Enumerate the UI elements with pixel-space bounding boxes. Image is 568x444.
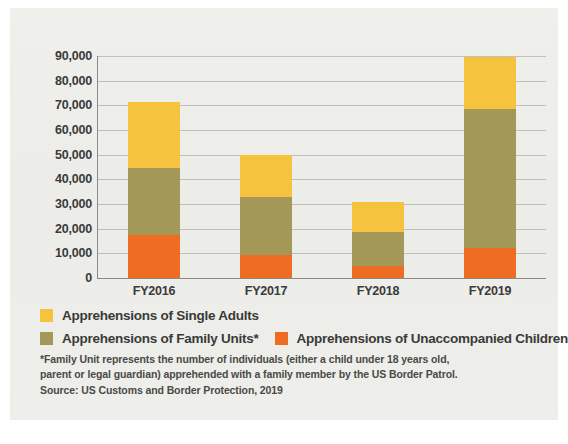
- legend-row: Apprehensions of Family Units*Apprehensi…: [40, 327, 550, 350]
- legend-swatch-family-units: [40, 332, 53, 345]
- y-tick-label: 0: [22, 271, 92, 285]
- legend-item[interactable]: Apprehensions of Single Adults: [40, 308, 259, 323]
- y-tick-label: 90,000: [22, 49, 92, 63]
- plot-area: FY2016FY2017FY2018FY2019: [98, 56, 546, 278]
- legend-swatch-unaccompanied-children: [275, 332, 288, 345]
- y-tick-label: 40,000: [22, 172, 92, 186]
- bar-segment[interactable]: [352, 266, 404, 278]
- bar-group[interactable]: FY2019: [464, 56, 516, 278]
- legend-label: Apprehensions of Single Adults: [62, 308, 259, 323]
- footnote-line-1: *Family Unit represents the number of in…: [40, 352, 540, 367]
- bar-segment[interactable]: [240, 155, 292, 196]
- legend-item[interactable]: Apprehensions of Family Units*: [40, 331, 259, 346]
- x-axis-label: FY2017: [224, 284, 308, 298]
- y-tick-label: 50,000: [22, 148, 92, 162]
- bar-segment[interactable]: [128, 235, 180, 278]
- stacked-bar[interactable]: [464, 57, 516, 278]
- footnote-line-2: parent or legal guardian) apprehended wi…: [40, 367, 540, 382]
- bar-segment[interactable]: [464, 248, 516, 278]
- y-tick-label: 10,000: [22, 246, 92, 260]
- bar-segment[interactable]: [464, 57, 516, 109]
- legend-row: Apprehensions of Single Adults: [40, 304, 550, 327]
- x-axis-label: FY2018: [336, 284, 420, 298]
- y-tick-label: 30,000: [22, 197, 92, 211]
- bar-segment[interactable]: [128, 102, 180, 169]
- bar-group[interactable]: FY2017: [240, 56, 292, 278]
- footnote-block: *Family Unit represents the number of in…: [40, 352, 540, 381]
- y-tick-label: 70,000: [22, 98, 92, 112]
- chart-figure: 90,00080,00070,00060,00050,00040,00030,0…: [10, 8, 558, 420]
- bar-segment[interactable]: [352, 202, 404, 233]
- bar-group[interactable]: FY2018: [352, 56, 404, 278]
- legend-label: Apprehensions of Family Units*: [62, 331, 259, 346]
- bar-segment[interactable]: [240, 197, 292, 255]
- bar-group[interactable]: FY2016: [128, 56, 180, 278]
- x-axis-label: FY2019: [448, 284, 532, 298]
- bar-segment[interactable]: [240, 255, 292, 278]
- x-axis-label: FY2016: [112, 284, 196, 298]
- chart-legend: Apprehensions of Single AdultsApprehensi…: [40, 304, 550, 350]
- legend-label: Apprehensions of Unaccompanied Children: [297, 331, 568, 346]
- y-tick-label: 20,000: [22, 222, 92, 236]
- legend-swatch-single-adults: [40, 309, 53, 322]
- y-axis-tick-labels: 90,00080,00070,00060,00050,00040,00030,0…: [18, 56, 92, 278]
- y-tick-label: 60,000: [22, 123, 92, 137]
- y-tick-label: 80,000: [22, 74, 92, 88]
- legend-item[interactable]: Apprehensions of Unaccompanied Children: [275, 331, 568, 346]
- axis-baseline: [98, 278, 546, 279]
- stacked-bar[interactable]: [240, 155, 292, 278]
- stacked-bar[interactable]: [352, 202, 404, 278]
- stacked-bar[interactable]: [128, 102, 180, 278]
- bar-segment[interactable]: [352, 232, 404, 265]
- source-note: Source: US Customs and Border Protection…: [40, 384, 283, 396]
- bar-segment[interactable]: [128, 168, 180, 235]
- bar-segment[interactable]: [464, 109, 516, 248]
